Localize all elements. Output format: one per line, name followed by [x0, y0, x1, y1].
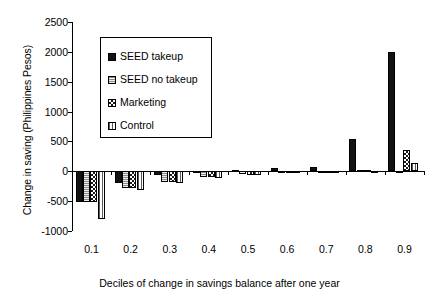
x-group-separator	[228, 171, 229, 175]
bar	[122, 171, 129, 188]
y-tick-mark	[68, 52, 72, 53]
bar-chart-figure: Change in saving (Philippines Pesos) 250…	[0, 0, 439, 304]
x-tick-label: 0.1	[72, 244, 112, 255]
y-tick-mark	[68, 112, 72, 113]
y-tick-label: -500	[22, 196, 68, 206]
x-group-separator	[385, 171, 386, 175]
legend-swatch-icon	[108, 99, 116, 107]
legend-swatch-icon	[108, 122, 116, 130]
bar	[208, 171, 215, 177]
y-tick-label: 500	[22, 136, 68, 146]
bar	[239, 171, 246, 173]
bar	[115, 171, 122, 183]
bar	[161, 171, 168, 182]
bar	[200, 171, 207, 177]
legend-swatch-icon	[108, 76, 116, 84]
bar	[293, 171, 300, 173]
legend-item: SEED takeup	[108, 45, 211, 68]
x-group-separator	[268, 171, 269, 175]
y-tick-mark	[68, 201, 72, 202]
x-group-separator	[111, 171, 112, 175]
bar	[357, 170, 364, 172]
bar	[286, 171, 293, 173]
y-tick-label: 0	[22, 166, 68, 176]
x-group-separator	[72, 171, 73, 175]
bar	[254, 171, 261, 175]
bar	[371, 171, 378, 173]
bar	[396, 171, 403, 173]
bar	[349, 139, 356, 171]
legend-label: Control	[120, 120, 154, 131]
legend-item: Control	[108, 114, 211, 137]
x-tick-label: 0.8	[345, 244, 385, 255]
bar	[403, 150, 410, 171]
legend-item: SEED no takeup	[108, 68, 211, 91]
bar	[388, 52, 395, 172]
x-tick-label: 0.5	[228, 244, 268, 255]
x-tick-label: 0.7	[306, 244, 346, 255]
y-axis-line	[72, 22, 73, 231]
legend-swatch-icon	[108, 53, 116, 61]
y-tick-label: 1000	[22, 107, 68, 117]
x-axis-title: Deciles of change in savings balance aft…	[0, 277, 439, 289]
bar	[278, 171, 285, 173]
bar	[154, 171, 161, 175]
legend-label: SEED takeup	[120, 51, 183, 62]
x-group-separator	[189, 171, 190, 175]
bar	[176, 171, 183, 183]
bar	[332, 171, 339, 173]
x-group-separator	[424, 171, 425, 175]
x-group-separator	[307, 171, 308, 175]
bar	[76, 171, 83, 201]
x-group-separator	[346, 171, 347, 175]
x-tick-label: 0.3	[150, 244, 190, 255]
bar	[98, 171, 105, 219]
y-tick-label: 2500	[22, 17, 68, 27]
y-tick-label: -1000	[22, 226, 68, 236]
bar	[90, 171, 97, 202]
y-tick-mark	[68, 141, 72, 142]
x-tick-label: 0.6	[267, 244, 307, 255]
legend-item: Marketing	[108, 91, 211, 114]
bar	[318, 171, 325, 173]
chart-legend: SEED takeupSEED no takeupMarketingContro…	[100, 37, 212, 138]
y-tick-mark	[68, 22, 72, 23]
bar	[169, 171, 176, 182]
y-tick-label: 1500	[22, 77, 68, 87]
y-tick-mark	[68, 82, 72, 83]
bar	[232, 170, 239, 172]
bar	[247, 171, 254, 174]
bar	[83, 171, 90, 201]
bar	[411, 163, 418, 172]
bar	[215, 171, 222, 178]
legend-label: Marketing	[120, 97, 166, 108]
bar	[325, 171, 332, 173]
x-tick-label: 0.9	[384, 244, 424, 255]
bar	[364, 170, 371, 172]
y-tick-label: 2000	[22, 47, 68, 57]
bar	[310, 167, 317, 171]
x-tick-label: 0.2	[111, 244, 151, 255]
bar	[137, 171, 144, 190]
y-tick-mark	[68, 231, 72, 232]
x-tick-label: 0.4	[189, 244, 229, 255]
bar	[193, 171, 200, 173]
bar	[271, 168, 278, 171]
bar	[129, 171, 136, 188]
legend-label: SEED no takeup	[120, 74, 198, 85]
x-group-separator	[150, 171, 151, 175]
